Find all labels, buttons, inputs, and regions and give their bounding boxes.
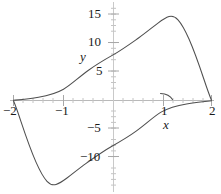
x-axis-name-label: x [163, 118, 169, 131]
y-tick-label-neg5: −5 [87, 121, 101, 134]
y-tick-label-neg10: −10 [80, 150, 100, 163]
x-tick-label-neg1: −1 [55, 104, 69, 117]
y-tick-label-5: 5 [96, 64, 103, 77]
y-axis-name-label: y [80, 50, 86, 63]
y-tick-label-10: 10 [88, 35, 101, 48]
curve-lower-branch [14, 101, 212, 185]
x-tick-label-2: 2 [209, 104, 216, 117]
plot-canvas [0, 0, 221, 194]
curve-arrowhead-icon [161, 94, 173, 100]
y-tick-label-15: 15 [88, 7, 101, 20]
x-tick-label-1: 1 [161, 104, 168, 117]
chart-figure: 15 10 5 −5 −10 −2 −1 1 2 y x [0, 0, 221, 194]
x-tick-label-neg2: −2 [3, 104, 17, 117]
curve-upper-branch [14, 16, 212, 100]
